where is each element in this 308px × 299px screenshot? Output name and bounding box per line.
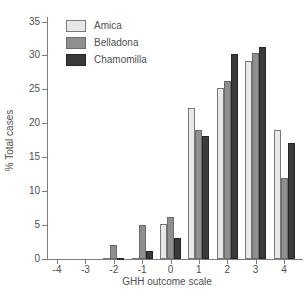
y-tick-0 xyxy=(42,259,47,260)
y-tick-10 xyxy=(42,191,47,192)
y-axis-title: % Total cases xyxy=(4,81,17,201)
bar-amica-4 xyxy=(274,130,281,259)
bar-belladona-0 xyxy=(167,217,174,259)
y-tick-35 xyxy=(42,22,47,23)
bar-chamomilla-3 xyxy=(259,47,266,259)
bar-amica-2 xyxy=(217,88,224,259)
y-tick-30 xyxy=(42,55,47,56)
legend-label-belladona: Belladona xyxy=(94,37,138,48)
legend-item-belladona: Belladona xyxy=(66,34,147,51)
bar-belladona-2 xyxy=(224,81,231,259)
legend-swatch-amica xyxy=(66,20,86,32)
bar-chart-figure: 05101520253035 -4-3-2-101234 % Total cas… xyxy=(0,0,308,299)
bar-belladona-4 xyxy=(281,178,288,259)
y-tick-label-15: 15 xyxy=(20,151,40,163)
legend-label-chamomilla: Chamomilla xyxy=(94,54,147,65)
bar-belladona-neg1 xyxy=(139,225,146,259)
x-tick-label--3: -3 xyxy=(73,264,97,276)
legend-item-chamomilla: Chamomilla xyxy=(66,51,147,68)
x-tick-label-2: 2 xyxy=(215,264,239,276)
bar-belladona-3 xyxy=(252,53,259,259)
bar-chamomilla-neg2 xyxy=(117,258,124,260)
legend: Amica Belladona Chamomilla xyxy=(66,17,147,68)
bar-amica-0 xyxy=(160,224,167,259)
y-tick-label-25: 25 xyxy=(20,83,40,95)
y-axis-line xyxy=(47,17,48,260)
bar-amica-neg1 xyxy=(132,258,139,260)
bar-amica-1 xyxy=(188,108,195,259)
legend-item-amica: Amica xyxy=(66,17,147,34)
y-tick-label-10: 10 xyxy=(20,185,40,197)
bar-chamomilla-neg1 xyxy=(146,251,153,259)
bar-chamomilla-2 xyxy=(231,54,238,259)
legend-label-amica: Amica xyxy=(94,20,122,31)
x-tick-label-4: 4 xyxy=(272,264,296,276)
bar-belladona-neg2 xyxy=(110,245,117,259)
x-tick-label--1: -1 xyxy=(130,264,154,276)
bar-chamomilla-0 xyxy=(174,238,181,259)
bar-chamomilla-1 xyxy=(202,136,209,259)
y-tick-label-0: 0 xyxy=(20,253,40,265)
bar-chamomilla-4 xyxy=(288,143,295,259)
x-tick-label-1: 1 xyxy=(187,264,211,276)
x-tick-label-0: 0 xyxy=(159,264,183,276)
y-tick-20 xyxy=(42,123,47,124)
y-tick-15 xyxy=(42,157,47,158)
y-tick-label-35: 35 xyxy=(20,16,40,28)
legend-swatch-chamomilla xyxy=(66,54,86,66)
bar-belladona-1 xyxy=(195,130,202,259)
legend-swatch-belladona xyxy=(66,37,86,49)
x-tick-label--4: -4 xyxy=(45,264,69,276)
x-axis-title: GHH outcome scale xyxy=(47,276,287,287)
y-tick-label-30: 30 xyxy=(20,49,40,61)
y-tick-5 xyxy=(42,225,47,226)
bar-amica-neg2 xyxy=(103,258,110,260)
bar-amica-3 xyxy=(245,61,252,259)
y-tick-label-5: 5 xyxy=(20,219,40,231)
y-tick-label-20: 20 xyxy=(20,117,40,129)
y-tick-25 xyxy=(42,89,47,90)
x-tick-label-3: 3 xyxy=(244,264,268,276)
x-tick-label--2: -2 xyxy=(102,264,126,276)
